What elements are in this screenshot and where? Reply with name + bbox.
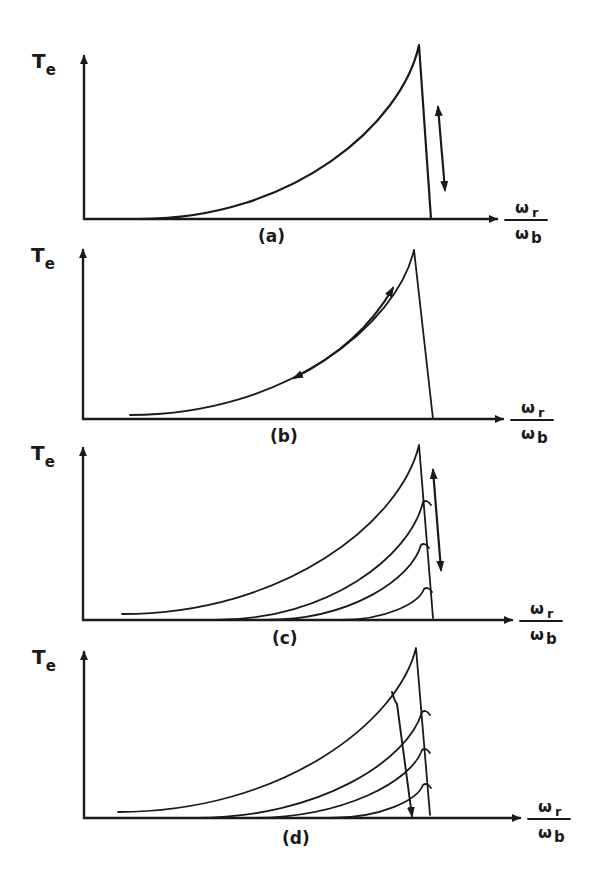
x-axis-label: ωr ωb — [505, 198, 547, 247]
panel-label: (b) — [270, 426, 298, 446]
curved-double-arrow-icon — [294, 288, 393, 378]
panel-label: (c) — [272, 628, 298, 648]
axes — [83, 448, 512, 620]
torque-curves — [130, 250, 433, 419]
axes — [84, 56, 497, 219]
torque-speed-figure: Te ωr ωb (a) Te ωr ωb (b) Te ωr ωb (c) — [0, 0, 602, 869]
direction-arrow-icon — [438, 107, 445, 190]
y-axis-label: Te — [32, 645, 56, 675]
torque-curves — [122, 445, 433, 620]
torque-curves — [118, 648, 431, 818]
x-axis-label: ωr ωb — [520, 599, 562, 648]
y-axis-label: Te — [31, 243, 55, 273]
svg-text:ωr: ωr — [521, 398, 545, 420]
axes — [84, 652, 520, 818]
panel-label: (a) — [258, 226, 285, 246]
svg-text:ωb: ωb — [538, 823, 565, 846]
svg-text:ωr: ωr — [538, 797, 562, 819]
double-arrow-icon — [433, 470, 441, 570]
svg-text:ωr: ωr — [530, 599, 554, 621]
panel-c: Te ωr ωb (c) — [31, 441, 562, 648]
panel-a: Te ωr ωb (a) — [32, 45, 547, 247]
svg-text:ωb: ωb — [530, 625, 557, 648]
panel-d: Te ωr ωb (d) — [32, 645, 570, 848]
panel-label: (d) — [282, 828, 310, 848]
down-arrow-icon — [392, 692, 412, 816]
svg-text:ωb: ωb — [521, 424, 548, 447]
torque-curves — [140, 45, 431, 219]
x-axis-label: ωr ωb — [528, 797, 570, 846]
svg-text:ωb: ωb — [515, 224, 542, 247]
y-axis-label: Te — [31, 441, 55, 471]
panel-b: Te ωr ωb (b) — [31, 243, 553, 447]
axes — [83, 250, 503, 419]
x-axis-label: ωr ωb — [511, 398, 553, 447]
svg-text:ωr: ωr — [515, 198, 539, 220]
y-axis-label: Te — [32, 49, 56, 79]
